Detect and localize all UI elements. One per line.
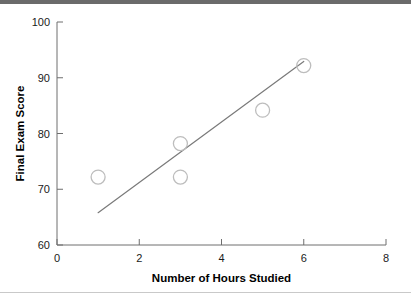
data-point-marker	[173, 170, 187, 184]
regression-trend-line	[98, 61, 304, 212]
y-tick-label-70: 70	[38, 183, 50, 195]
x-tick-label-6: 6	[301, 252, 307, 264]
y-tick-label-80: 80	[38, 128, 50, 140]
x-tick-label-4: 4	[218, 252, 224, 264]
x-tick-label-0: 0	[54, 252, 60, 264]
scatter-chart-svg: 100 90 80 70 60 0 2 4 6 8 Number of Hour…	[0, 0, 411, 301]
y-tick-label-60: 60	[38, 239, 50, 251]
x-axis-title: Number of Hours Studied	[152, 272, 291, 284]
data-point-marker	[91, 170, 105, 184]
data-point-marker	[173, 137, 187, 151]
x-tick-label-2: 2	[136, 252, 142, 264]
data-point-marker	[256, 103, 270, 117]
y-tick-label-90: 90	[38, 72, 50, 84]
chart-plot-area: 100 90 80 70 60 0 2 4 6 8 Number of Hour…	[0, 0, 411, 301]
scatter-plot-figure: 100 90 80 70 60 0 2 4 6 8 Number of Hour…	[0, 0, 411, 301]
y-axis-title: Final Exam Score	[14, 86, 26, 182]
y-tick-label-100: 100	[32, 16, 50, 28]
x-tick-label-8: 8	[383, 252, 389, 264]
